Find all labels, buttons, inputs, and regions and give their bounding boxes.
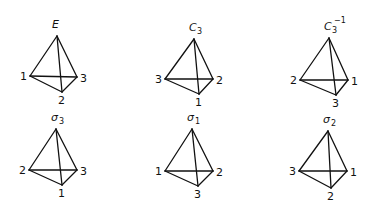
operation-label: σ bbox=[51, 111, 59, 124]
vertex-label-bottom: 1 bbox=[58, 187, 65, 200]
operation-label: E bbox=[52, 18, 59, 31]
panel-sigma-3: σ3231 bbox=[19, 111, 87, 200]
edge-left-right bbox=[30, 76, 77, 77]
vertex-label-right: 3 bbox=[80, 72, 87, 85]
edge-left-bottom bbox=[300, 80, 336, 95]
edge-apex-left bbox=[299, 131, 328, 171]
edge-left-bottom bbox=[29, 170, 62, 185]
vertex-label-bottom: 3 bbox=[194, 188, 201, 201]
vertex-label-bottom: 3 bbox=[332, 97, 339, 110]
panel-c3: C3321 bbox=[155, 21, 223, 109]
operation-subscript: 3 bbox=[197, 27, 202, 36]
vertex-label-bottom: 1 bbox=[195, 96, 202, 109]
vertex-label-right: 2 bbox=[216, 74, 223, 87]
vertex-label-right: 2 bbox=[216, 166, 223, 179]
vertex-label-right: 1 bbox=[351, 75, 358, 88]
operation-subscript: 1 bbox=[195, 117, 200, 126]
edge-apex-bottom bbox=[192, 129, 198, 186]
vertex-label-right: 1 bbox=[350, 166, 357, 179]
edge-apex-bottom bbox=[328, 131, 331, 188]
edge-right-bottom bbox=[336, 80, 348, 95]
vertex-label-right: 3 bbox=[80, 165, 87, 178]
vertex-label-left: 3 bbox=[155, 73, 162, 86]
edge-left-bottom bbox=[299, 171, 331, 188]
edge-right-bottom bbox=[198, 171, 213, 186]
vertex-label-left: 2 bbox=[290, 74, 297, 87]
edge-right-bottom bbox=[62, 170, 77, 185]
operation-label: C bbox=[189, 21, 197, 34]
vertex-label-left: 3 bbox=[289, 165, 296, 178]
edge-apex-left bbox=[29, 129, 56, 170]
vertex-label-bottom: 2 bbox=[58, 94, 65, 107]
symmetry-operations-diagram: E132 C3321 C3−1213 σ3231 σ1123 σ2312 bbox=[0, 0, 374, 212]
edge-apex-left bbox=[165, 129, 192, 171]
edge-right-bottom bbox=[331, 171, 347, 188]
edge-right-bottom bbox=[62, 77, 77, 92]
panel-c3-inverse: C3−1213 bbox=[290, 16, 358, 110]
panel-sigma-1: σ1123 bbox=[155, 111, 223, 201]
operation-subscript: 3 bbox=[332, 26, 337, 35]
operation-subscript: 3 bbox=[59, 117, 64, 126]
panel-identity: E132 bbox=[20, 18, 87, 107]
edge-left-bottom bbox=[165, 79, 199, 94]
operation-label: σ bbox=[187, 111, 195, 124]
edge-apex-bottom bbox=[56, 129, 62, 185]
operation-subscript: 2 bbox=[331, 119, 336, 128]
vertex-label-left: 1 bbox=[20, 70, 27, 83]
operation-superscript: −1 bbox=[334, 16, 346, 25]
operation-label: C bbox=[324, 20, 332, 33]
vertex-label-left: 2 bbox=[19, 164, 26, 177]
edge-apex-right bbox=[328, 131, 347, 171]
edge-apex-left bbox=[30, 36, 57, 76]
vertex-label-left: 1 bbox=[155, 165, 162, 178]
operation-label: σ bbox=[323, 113, 331, 126]
panel-sigma-2: σ2312 bbox=[289, 113, 357, 203]
edge-left-bottom bbox=[165, 171, 198, 186]
edge-apex-left bbox=[300, 38, 329, 80]
edge-right-bottom bbox=[199, 79, 213, 94]
edge-left-bottom bbox=[30, 76, 62, 92]
vertex-label-bottom: 2 bbox=[327, 190, 334, 203]
edge-apex-left bbox=[165, 39, 194, 79]
